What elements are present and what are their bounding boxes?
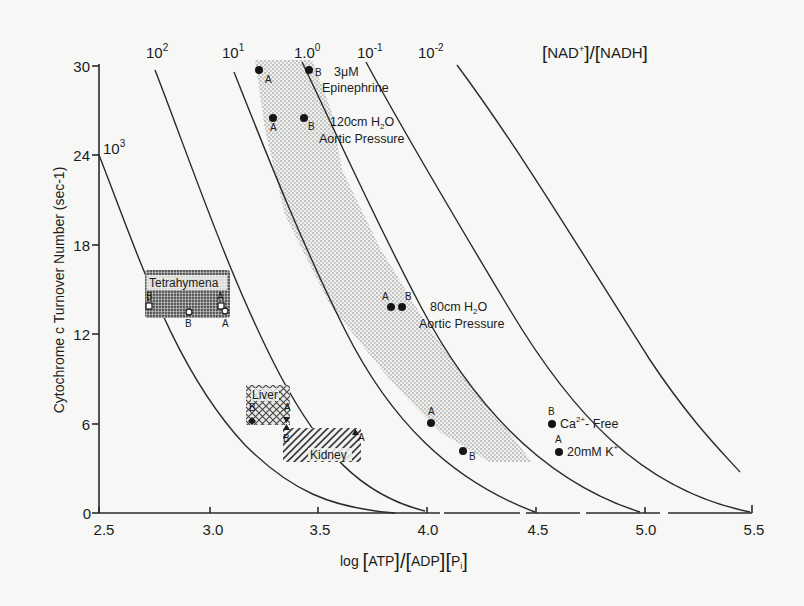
svg-text:[NAD+]/[NADH]: [NAD+]/[NADH] — [542, 42, 648, 63]
p80-a-point — [387, 303, 395, 311]
chart-figure: 30 24 18 12 6 0 2.5 3.0 3.5 4.0 4.5 5.0 … — [0, 0, 804, 606]
x-tick-4.0: 4.0 — [418, 521, 439, 538]
svg-text:B: B — [185, 318, 192, 329]
svg-text:10-2: 10-2 — [418, 42, 444, 61]
ca-free-b-point — [459, 447, 467, 455]
x-tick-5.0: 5.0 — [636, 521, 657, 538]
p120-a-point — [269, 114, 277, 122]
x-tick-2.5: 2.5 — [94, 521, 115, 538]
x-tick-3.5: 3.5 — [310, 521, 331, 538]
svg-text:3μM: 3μM — [334, 65, 359, 79]
svg-text:B: B — [308, 121, 315, 132]
svg-text:A: A — [284, 402, 291, 413]
svg-text:10-1: 10-1 — [357, 42, 383, 61]
svg-text:Epinephrine: Epinephrine — [322, 81, 389, 95]
svg-text:B: B — [405, 291, 412, 302]
svg-text:A: A — [270, 122, 277, 133]
epi-a-point — [255, 66, 263, 74]
svg-text:B: B — [283, 433, 290, 444]
y-tick-0: 0 — [83, 505, 91, 522]
k-b-point — [548, 420, 556, 428]
y-tick-30: 30 — [73, 58, 90, 75]
svg-text:Tetrahymena: Tetrahymena — [149, 276, 219, 290]
x-axis — [99, 505, 752, 513]
svg-text:120cm H2O: 120cm H2O — [330, 115, 394, 131]
svg-text:Kidney: Kidney — [310, 448, 347, 462]
svg-text:103: 103 — [103, 138, 126, 157]
y-tick-labels: 30 24 18 12 6 0 — [73, 58, 91, 522]
curve-10e-2 — [457, 65, 740, 472]
y-tick-24: 24 — [73, 147, 90, 164]
svg-text:102: 102 — [146, 42, 169, 61]
tetrahymena-region: Tetrahymena B A B A — [145, 270, 230, 329]
svg-text:A: A — [428, 406, 435, 417]
svg-text:101: 101 — [222, 42, 245, 61]
svg-text:Liver: Liver — [252, 388, 278, 402]
x-tick-labels: 2.5 3.0 3.5 4.0 4.5 5.0 5.5 — [94, 521, 765, 538]
svg-text:A: A — [265, 74, 272, 85]
x-axis-title: log [ATP]/[ADP][Pi] — [340, 550, 468, 572]
ca-free-a-point — [427, 419, 435, 427]
y-axis — [92, 64, 99, 513]
y-tick-12: 12 — [73, 326, 90, 343]
x-tick-3.0: 3.0 — [203, 521, 224, 538]
y-tick-18: 18 — [73, 237, 90, 254]
svg-text:log [ATP]/[ADP][Pi]: log [ATP]/[ADP][Pi] — [340, 550, 468, 572]
p80-b-point — [398, 303, 406, 311]
svg-text:B: B — [249, 402, 256, 413]
x-tick-5.5: 5.5 — [744, 521, 765, 538]
svg-text:Aortic Pressure: Aortic Pressure — [419, 317, 504, 331]
y-axis-title: Cytochrome c Turnover Number (sec-1) — [51, 167, 67, 414]
p120-b-point — [300, 114, 308, 122]
kidney-region: Kidney B A — [283, 424, 365, 462]
svg-text:A: A — [358, 432, 365, 443]
y-tick-6: 6 — [82, 416, 90, 433]
svg-text:1.00: 1.00 — [294, 42, 321, 61]
svg-text:B: B — [548, 406, 555, 417]
svg-text:B: B — [469, 451, 476, 462]
svg-text:20mM K+: 20mM K+ — [567, 443, 619, 459]
k-a-point — [555, 448, 563, 456]
liver-region: Liver B A — [246, 385, 291, 425]
x-tick-4.5: 4.5 — [528, 521, 549, 538]
svg-text:A: A — [217, 291, 224, 302]
svg-text:80cm H2O: 80cm H2O — [430, 300, 488, 316]
svg-text:A: A — [222, 318, 229, 329]
svg-text:A: A — [382, 291, 389, 302]
svg-text:A: A — [555, 434, 562, 445]
legend-title: [NAD+]/[NADH] — [542, 42, 648, 63]
epi-b-point — [305, 66, 313, 74]
svg-text:B: B — [315, 67, 322, 78]
svg-text:Ca2+- Free: Ca2+- Free — [560, 415, 618, 431]
svg-text:Aortic Pressure: Aortic Pressure — [319, 132, 404, 146]
svg-text:B: B — [146, 291, 153, 302]
